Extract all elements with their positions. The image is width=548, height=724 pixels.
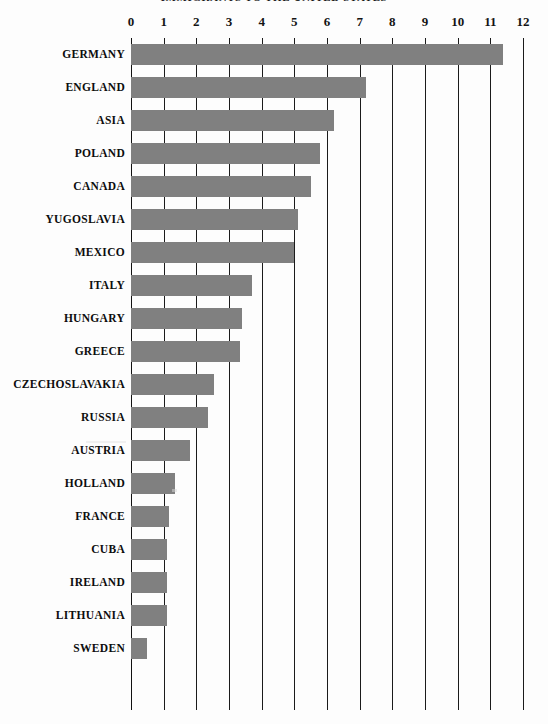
bar (131, 341, 240, 362)
x-tick-label: 8 (389, 14, 396, 30)
x-tick-label: 6 (324, 14, 331, 30)
gridline-4 (262, 38, 263, 710)
bar (131, 44, 503, 65)
gridline-7 (360, 38, 361, 710)
category-label: FRANCE (1, 510, 125, 522)
x-tick-label: 0 (128, 14, 135, 30)
plot-area: 0123456789101112 (131, 38, 523, 710)
x-tick-label: 5 (291, 14, 298, 30)
category-label: CUBA (1, 543, 125, 555)
category-label: ENGLAND (1, 81, 125, 93)
bar-chart: IMMIGRANTS TO THE UNITED STATES GERMANYE… (0, 0, 548, 724)
bar (131, 176, 311, 197)
bar (131, 77, 366, 98)
x-tick-label: 9 (422, 14, 429, 30)
bar (131, 506, 169, 527)
bar (131, 473, 175, 494)
category-label: CANADA (1, 180, 125, 192)
category-label: RUSSIA (1, 411, 125, 423)
x-tick-label: 10 (451, 14, 464, 30)
category-label: MEXICO (1, 246, 125, 258)
gridline-10 (458, 38, 459, 710)
x-tick-label: 1 (160, 14, 167, 30)
bar (131, 209, 298, 230)
gridline-6 (327, 38, 328, 710)
bar (131, 143, 320, 164)
x-tick-label: 4 (258, 14, 265, 30)
bar (131, 374, 214, 395)
category-label: GERMANY (1, 48, 125, 60)
bar (131, 638, 147, 659)
category-label: IRELAND (1, 576, 125, 588)
bar (131, 440, 190, 461)
category-axis: GERMANYENGLANDASIAPOLANDCANADAYUGOSLAVIA… (0, 38, 125, 710)
gridline-11 (490, 38, 491, 710)
category-label: GREECE (1, 345, 125, 357)
x-tick-label: 7 (356, 14, 363, 30)
category-label: YUGOSLAVIA (1, 213, 125, 225)
bar (131, 539, 167, 560)
bar (131, 242, 294, 263)
gridline-8 (392, 38, 393, 710)
x-tick-label: 12 (517, 14, 530, 30)
gridline-9 (425, 38, 426, 710)
x-tick-label: 11 (484, 14, 496, 30)
category-label: SWEDEN (1, 642, 125, 654)
bar (131, 572, 167, 593)
category-label: HUNGARY (1, 312, 125, 324)
category-label: HOLLAND (1, 477, 125, 489)
x-tick-label: 3 (226, 14, 233, 30)
bar (131, 275, 252, 296)
bar (131, 407, 208, 428)
category-label: LITHUANIA (1, 609, 125, 621)
gridline-3 (229, 38, 230, 710)
category-label: ASIA (1, 114, 125, 126)
gridline-5 (294, 38, 295, 710)
category-label: AUSTRIA (1, 444, 125, 456)
category-label: POLAND (1, 147, 125, 159)
gridline-12 (523, 38, 524, 710)
bar (131, 605, 167, 626)
x-tick-label: 2 (193, 14, 200, 30)
page-title: IMMIGRANTS TO THE UNITED STATES (0, 0, 548, 2)
bar (131, 110, 334, 131)
bar (131, 308, 242, 329)
category-label: ITALY (1, 279, 125, 291)
category-label: CZECHOSLAVAKIA (1, 378, 125, 390)
